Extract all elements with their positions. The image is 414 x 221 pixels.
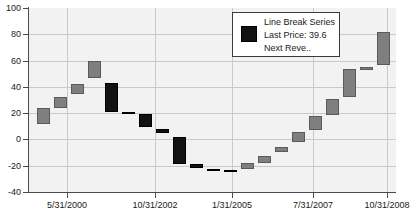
line-break-bar	[377, 32, 390, 65]
line-break-bar	[54, 97, 67, 108]
line-break-bar	[292, 132, 305, 142]
line-break-bar	[156, 129, 169, 133]
y-axis-tick-label: 40	[0, 83, 21, 92]
gridline-vertical	[67, 8, 68, 192]
x-axis-tick	[313, 193, 314, 198]
legend-series-label: Line Break Series	[264, 16, 336, 29]
line-break-bar	[326, 99, 339, 115]
legend[interactable]: Line Break Series Last Price: 39.6 Next …	[232, 12, 340, 57]
y-axis-tick-label: 20	[0, 109, 21, 118]
line-break-bar	[241, 163, 254, 169]
x-axis-line	[28, 192, 396, 193]
line-break-bar	[173, 137, 186, 164]
y-axis-tick	[23, 139, 28, 140]
y-axis-tick	[23, 113, 28, 114]
y-axis-tick-label: 60	[0, 57, 21, 66]
y-axis-tick	[23, 61, 28, 62]
y-axis-tick	[23, 166, 28, 167]
legend-swatch-icon	[241, 26, 257, 42]
x-axis-tick-label: 1/31/2005	[192, 201, 272, 210]
y-axis-tick	[23, 87, 28, 88]
y-axis-tick	[23, 8, 28, 9]
line-break-bar	[360, 67, 373, 70]
x-axis-tick-label: 5/31/2000	[27, 201, 107, 210]
x-axis-tick	[67, 193, 68, 198]
x-axis-tick	[232, 193, 233, 198]
y-axis-tick	[23, 192, 28, 193]
x-axis-tick	[155, 193, 156, 198]
gridline-horizontal	[28, 166, 396, 167]
line-break-bar	[37, 108, 50, 124]
plot-area	[28, 8, 396, 192]
x-axis-tick-label: 10/31/2002	[115, 201, 195, 210]
line-break-bar	[258, 156, 271, 163]
line-break-bar	[139, 114, 152, 127]
line-break-bar	[105, 83, 118, 112]
line-break-bar	[275, 147, 288, 152]
line-break-bar	[71, 84, 84, 94]
y-axis-tick-label: -40	[0, 188, 21, 197]
gridline-vertical	[155, 8, 156, 192]
line-break-bar	[190, 164, 203, 168]
gridline-horizontal	[28, 34, 396, 35]
line-break-bar	[207, 169, 220, 171]
y-axis-tick-label: -20	[0, 162, 21, 171]
x-axis-tick	[387, 193, 388, 198]
gridline-horizontal	[28, 139, 396, 140]
gridline-horizontal	[28, 113, 396, 114]
legend-last-price: Last Price: 39.6	[264, 29, 336, 42]
gridline-horizontal	[28, 61, 396, 62]
line-break-bar	[88, 61, 101, 78]
line-break-bar	[122, 112, 135, 114]
y-axis-tick	[23, 34, 28, 35]
y-axis-tick-label: 80	[0, 30, 21, 39]
x-axis-tick-label: 7/31/2007	[273, 201, 353, 210]
line-break-bar	[309, 116, 322, 130]
legend-text-block: Line Break Series Last Price: 39.6 Next …	[264, 16, 336, 55]
y-axis-line	[28, 7, 29, 193]
line-break-bar	[224, 170, 237, 172]
line-break-bar	[343, 69, 356, 97]
y-axis-tick-label: 100	[0, 4, 21, 13]
y-axis-tick-label: 0	[0, 135, 21, 144]
x-axis-tick-label: 10/31/2008	[347, 201, 414, 210]
legend-next-revenue: Next Reve..	[264, 42, 336, 55]
